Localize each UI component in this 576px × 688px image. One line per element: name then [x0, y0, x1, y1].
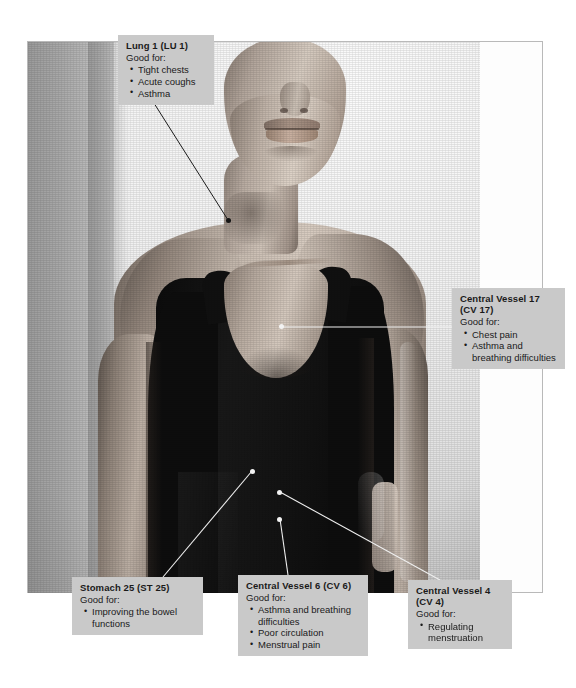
callout-use-list: Chest pain Asthma and breathing difficul… — [460, 329, 557, 363]
callout-lu1[interactable]: Lung 1 (LU 1) Good for: Tight chests Acu… — [118, 35, 214, 105]
callout-title: Central Vessel 17 (CV 17) — [460, 293, 557, 315]
callout-cv17[interactable]: Central Vessel 17 (CV 17) Good for: Ches… — [452, 288, 565, 369]
callout-use-list: Regulating menstruation — [416, 621, 504, 643]
leader-line-st25 — [163, 471, 252, 577]
point-marker-lu1[interactable] — [226, 218, 231, 223]
callout-st25[interactable]: Stomach 25 (ST 25) Good for: Improving t… — [72, 577, 203, 635]
callout-use-list: Improving the bowel functions — [80, 606, 195, 628]
callout-title: Lung 1 (LU 1) — [126, 40, 206, 51]
list-item: Regulating menstruation — [428, 621, 504, 643]
list-item: Acute coughs — [138, 76, 206, 87]
point-marker-cv6[interactable] — [277, 517, 282, 522]
point-marker-cv17[interactable] — [279, 324, 284, 329]
list-item: Tight chests — [138, 64, 206, 75]
callout-use-list: Tight chests Acute coughs Asthma — [126, 64, 206, 99]
list-item: Improving the bowel functions — [92, 606, 195, 628]
list-item: Poor circulation — [258, 627, 360, 638]
callout-goodfor-label: Good for: — [80, 594, 195, 605]
point-marker-st25[interactable] — [250, 469, 255, 474]
list-item: Asthma — [138, 88, 206, 99]
callout-title: Central Vessel 6 (CV 6) — [246, 580, 360, 591]
callout-use-list: Asthma and breathing difficulties Poor c… — [246, 604, 360, 650]
list-item: Chest pain — [472, 329, 557, 340]
point-marker-cv4[interactable] — [277, 490, 282, 495]
list-item: Asthma and breathing difficulties — [258, 604, 360, 626]
callout-title: Stomach 25 (ST 25) — [80, 582, 195, 593]
callout-goodfor-label: Good for: — [416, 608, 504, 619]
callout-goodfor-label: Good for: — [246, 592, 360, 603]
leader-line-lu1 — [152, 100, 228, 220]
callout-goodfor-label: Good for: — [126, 52, 206, 63]
callout-goodfor-label: Good for: — [460, 316, 557, 327]
list-item: Menstrual pain — [258, 639, 360, 650]
callout-title: Central Vessel 4 (CV 4) — [416, 585, 504, 607]
callout-cv4[interactable]: Central Vessel 4 (CV 4) Good for: Regula… — [408, 580, 512, 649]
leader-line-cv6 — [280, 519, 288, 575]
callout-cv6[interactable]: Central Vessel 6 (CV 6) Good for: Asthma… — [238, 575, 368, 656]
leader-line-cv4 — [280, 492, 440, 580]
list-item: Asthma and breathing difficulties — [472, 340, 557, 362]
